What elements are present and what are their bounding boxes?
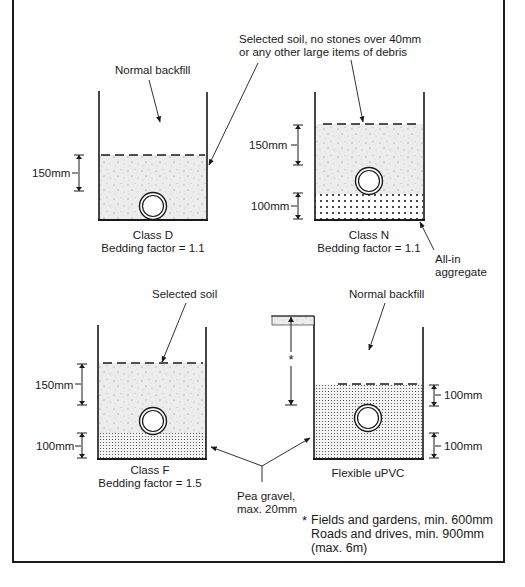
- all-in-aggregate-label-line2: aggregate: [435, 266, 487, 278]
- pipe: [356, 168, 383, 195]
- dimension-150mm: 150mm: [32, 155, 84, 191]
- dimension-label: 150mm: [32, 167, 70, 179]
- dimension-100mm: 100mm: [251, 193, 303, 219]
- all-in-aggregate-label-line1: All-in: [435, 253, 461, 265]
- caption-bedding-factor: Bedding factor = 1.5: [98, 477, 201, 489]
- pea-gravel-label-line1: Pea gravel,: [237, 490, 295, 502]
- caption-bedding-factor: Bedding factor = 1.1: [101, 242, 204, 254]
- pipe: [355, 405, 382, 432]
- caption: Flexible uPVC: [332, 467, 405, 479]
- selected-soil-fill: [98, 363, 206, 412]
- pea-gravel-fill: [98, 433, 206, 458]
- panel-flexible-upvc: * Normal backfill 100mm 100mm Flexible u…: [271, 288, 482, 479]
- pipe: [140, 193, 167, 220]
- dimension-100mm: 100mm: [36, 433, 87, 458]
- dimension-label: 100mm: [444, 389, 482, 401]
- dimension-label: 100mm: [251, 200, 289, 212]
- caption-bedding-factor: Bedding factor = 1.1: [317, 242, 420, 254]
- all-in-aggregate-fill: [315, 194, 423, 220]
- leader-arrow: [162, 303, 186, 362]
- dimension-150mm: 150mm: [35, 364, 87, 405]
- pipe: [140, 408, 167, 435]
- pea-gravel-arrow-to-class-f: [211, 447, 262, 466]
- footnote-line3: (max. 6m): [311, 541, 367, 555]
- dimension-label: 150mm: [249, 139, 287, 151]
- selected-soil-label: Selected soil: [152, 288, 217, 300]
- panel-class-d: Normal backfill 150mm Class D Bedding fa…: [32, 64, 208, 254]
- leader-arrow: [149, 80, 160, 122]
- footnote: * Fields and gardens, min. 600mm Roads a…: [302, 513, 493, 555]
- panel-class-f: Selected soil 150mm 100mm Class F Beddin…: [35, 288, 217, 489]
- cover-depth-dimension: *: [285, 317, 297, 405]
- panel-class-n: Selected soil, no stones over 40mm or an…: [209, 33, 487, 278]
- normal-backfill-label: Normal backfill: [349, 288, 424, 300]
- footnote-marker: *: [302, 513, 307, 528]
- pea-gravel-arrow-to-upvc: [262, 438, 310, 466]
- caption-class: Class D: [133, 229, 173, 241]
- footnote-line2: Roads and drives, min. 900mm: [311, 527, 484, 541]
- dimension-label: 100mm: [36, 440, 74, 452]
- pea-gravel-callout: Pea gravel, max. 20mm: [211, 438, 310, 515]
- dimension-label: 100mm: [444, 440, 482, 452]
- cover-depth-marker: *: [288, 352, 293, 367]
- dimension-100mm-upper: 100mm: [429, 385, 482, 406]
- normal-backfill-label: Normal backfill: [115, 64, 190, 76]
- dimension-100mm-lower: 100mm: [429, 433, 482, 458]
- selected-soil-label-line2: or any other large items of debris: [239, 46, 407, 58]
- pea-gravel-label-line2: max. 20mm: [237, 503, 297, 515]
- leader-arrow: [369, 303, 385, 350]
- selected-soil-label-line1: Selected soil, no stones over 40mm: [239, 33, 421, 45]
- aggregate-leader-arrow: [420, 222, 434, 250]
- caption-class: Class N: [349, 229, 389, 241]
- caption-class: Class F: [131, 464, 170, 476]
- footnote-line1: Fields and gardens, min. 600mm: [311, 513, 493, 527]
- dimension-150mm: 150mm: [249, 125, 303, 165]
- pipe-bedding-diagram: Normal backfill 150mm Class D Bedding fa…: [0, 0, 525, 587]
- leader-arrow-to-class-n: [351, 60, 363, 122]
- dimension-label: 150mm: [35, 379, 73, 391]
- frame-border: [13, 0, 504, 562]
